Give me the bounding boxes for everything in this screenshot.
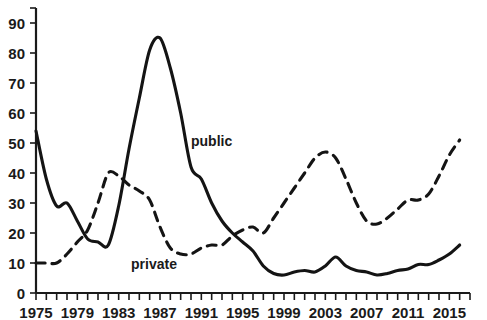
x-axis-tick-labels: 1975197919831987199119951999200320072011… (19, 304, 466, 320)
y-axis-tick-label: 90 (8, 15, 25, 32)
x-axis-tick-label: 2011 (392, 304, 425, 320)
x-axis-tick-label: 1999 (267, 304, 300, 320)
y-axis-tick-label: 80 (8, 45, 25, 62)
y-axis-tick-label: 0 (17, 285, 25, 302)
y-axis-tick-label: 10 (8, 255, 25, 272)
y-axis-tick-labels: 0102030405060708090 (8, 15, 25, 302)
x-axis-tick-label: 1979 (61, 304, 94, 320)
y-axis-tick-label: 50 (8, 135, 25, 152)
x-axis-tick-label: 2007 (350, 304, 383, 320)
x-axis-tick-label: 1987 (143, 304, 176, 320)
y-axis-tick-label: 40 (8, 165, 25, 182)
y-axis-tick-label: 20 (8, 225, 25, 242)
x-axis-tick-label: 2003 (309, 304, 342, 320)
series-line-public (36, 37, 460, 275)
x-axis-tick-label: 1983 (102, 304, 135, 320)
x-axis-tick-label: 1991 (185, 304, 218, 320)
series-lines (36, 37, 460, 275)
x-axis-tick-label: 2015 (433, 304, 466, 320)
line-chart: 0102030405060708090 19751979198319871991… (0, 0, 487, 320)
series-label-private: private (131, 256, 177, 272)
series-label-public: public (191, 133, 232, 149)
x-axis-tick-label: 1995 (226, 304, 259, 320)
x-axis-tick-label: 1975 (19, 304, 52, 320)
y-axis-tick-label: 70 (8, 75, 25, 92)
y-axis-tick-label: 60 (8, 105, 25, 122)
chart-container: 0102030405060708090 19751979198319871991… (0, 0, 487, 320)
y-axis-tick-label: 30 (8, 195, 25, 212)
